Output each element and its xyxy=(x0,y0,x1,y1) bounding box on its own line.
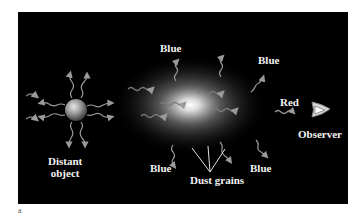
label-observer: Observer xyxy=(298,128,342,140)
panel-letter: a xyxy=(18,206,22,215)
observer-eye-icon xyxy=(312,102,330,117)
label-distant-object: Distant object xyxy=(48,155,82,179)
label-distant-object-line2: object xyxy=(51,167,80,179)
label-dust-grains: Dust grains xyxy=(190,174,244,186)
label-red: Red xyxy=(280,96,299,108)
dust-cloud xyxy=(112,55,268,155)
label-blue-top-left: Blue xyxy=(160,42,181,54)
label-blue-bottom-left: Blue xyxy=(150,162,171,174)
label-distant-object-line1: Distant xyxy=(48,155,82,167)
distant-object-sphere xyxy=(65,99,87,121)
label-blue-top-right: Blue xyxy=(258,54,279,66)
red-ray xyxy=(275,111,293,114)
diagram-panel: Blue Blue Red Observer Distant object Bl… xyxy=(18,12,348,204)
label-blue-bottom-right: Blue xyxy=(250,162,271,174)
